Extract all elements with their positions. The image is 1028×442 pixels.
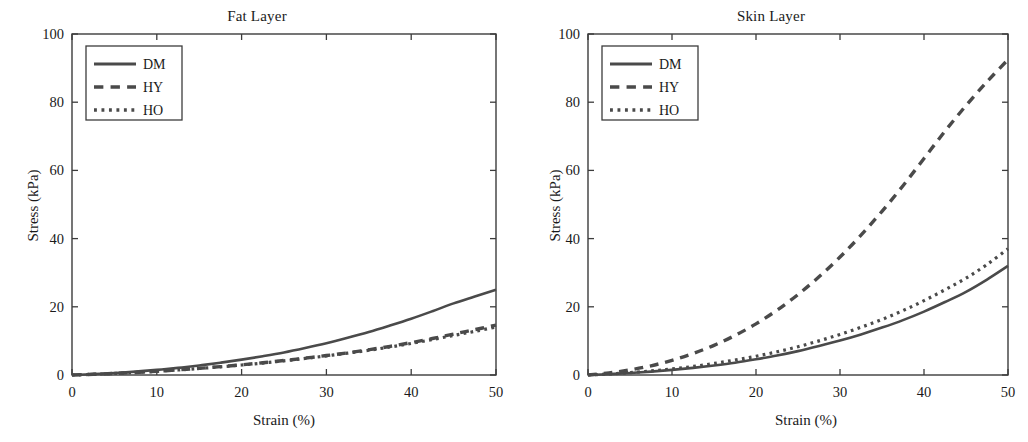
legend-label-dm: DM	[143, 57, 166, 72]
legend-label-hy: HY	[659, 80, 679, 95]
x-tick-label: 0	[68, 384, 75, 400]
x-tick-label: 30	[833, 384, 848, 400]
y-tick-label: 40	[50, 231, 65, 247]
figure-two-panel-stress-strain: Fat Layer Stress (kPa) Strain (%) 010203…	[0, 0, 1028, 442]
plot-area-skin-layer: 01020304050020406080100DMHYHO	[514, 0, 1028, 442]
y-tick-label: 20	[566, 299, 581, 315]
legend-label-ho: HO	[659, 103, 679, 118]
legend-label-ho: HO	[143, 103, 163, 118]
series-line-hy	[72, 325, 496, 375]
series-line-ho	[588, 249, 1008, 375]
x-tick-label: 10	[150, 384, 165, 400]
y-tick-label: 80	[566, 94, 581, 110]
y-tick-label: 60	[566, 162, 581, 178]
series-line-ho	[72, 327, 496, 375]
x-tick-label: 40	[917, 384, 932, 400]
y-tick-label: 0	[57, 367, 64, 383]
y-tick-label: 100	[558, 26, 580, 42]
x-tick-label: 20	[749, 384, 764, 400]
x-tick-label: 50	[1001, 384, 1016, 400]
y-tick-label: 80	[50, 94, 65, 110]
x-tick-label: 0	[584, 384, 591, 400]
legend-label-dm: DM	[659, 57, 682, 72]
y-tick-label: 40	[566, 231, 581, 247]
x-tick-label: 20	[234, 384, 249, 400]
plot-area-fat-layer: 01020304050020406080100DMHYHO	[0, 0, 514, 442]
legend-label-hy: HY	[143, 80, 163, 95]
y-tick-label: 100	[42, 26, 64, 42]
y-tick-label: 20	[50, 299, 65, 315]
x-tick-label: 10	[665, 384, 680, 400]
y-tick-label: 0	[573, 367, 580, 383]
panel-fat-layer: Fat Layer Stress (kPa) Strain (%) 010203…	[0, 0, 514, 442]
panel-skin-layer: Skin Layer Stress (kPa) Strain (%) 01020…	[514, 0, 1028, 442]
y-tick-label: 60	[50, 162, 65, 178]
series-line-dm	[588, 266, 1008, 375]
x-tick-label: 50	[489, 384, 504, 400]
x-tick-label: 30	[319, 384, 334, 400]
x-tick-label: 40	[404, 384, 419, 400]
